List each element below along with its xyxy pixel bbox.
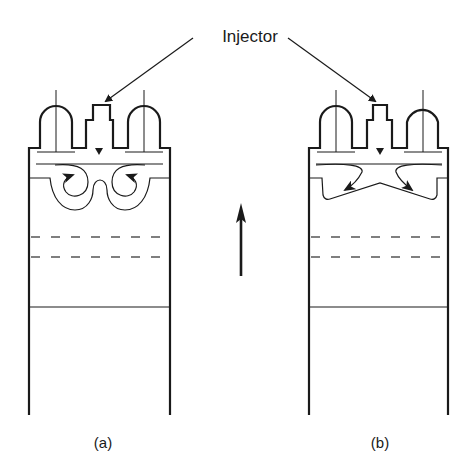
injector-label: Injector xyxy=(222,27,278,46)
injector-leader-right xyxy=(288,38,375,101)
injector-leader-left xyxy=(106,38,193,101)
panel-a-engine xyxy=(29,90,170,415)
diagram-canvas: Injector xyxy=(0,0,469,473)
panel-b-label: (b) xyxy=(371,434,389,451)
panel-b-engine xyxy=(309,90,448,415)
upward-arrow-icon xyxy=(236,203,246,276)
panel-a-label: (a) xyxy=(94,434,112,451)
